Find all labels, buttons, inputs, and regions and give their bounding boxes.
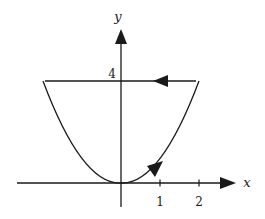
x-axis-label: x [243, 175, 251, 190]
parabola-arrow-icon [147, 161, 163, 177]
x-axis-arrow-icon [220, 177, 236, 189]
x-tick-label-2: 2 [195, 195, 203, 209]
y-axis-arrow-icon [115, 29, 127, 44]
y-axis: y 4 [108, 9, 127, 207]
top-segment-arrow-icon [153, 75, 168, 87]
x-tick-label-1: 1 [156, 195, 164, 209]
y-tick-label-4: 4 [108, 67, 116, 81]
line-integral-diagram: 1 2 x y 4 [0, 0, 265, 219]
y-axis-label: y [113, 9, 122, 24]
